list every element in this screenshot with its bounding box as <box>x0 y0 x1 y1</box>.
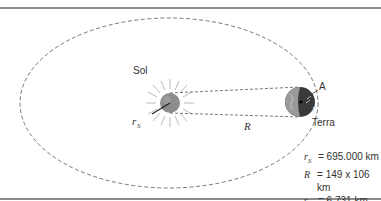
earth-radius-label: r <box>312 102 317 114</box>
distance-label: R <box>243 120 251 132</box>
legend-row-earth-radius: r = 6.731 km <box>304 194 381 201</box>
tangent-line-top <box>170 87 300 93</box>
point-a-label: A <box>319 81 326 92</box>
legend-row-distance: R = 149 x 106 km <box>304 168 381 194</box>
svg-text:S: S <box>137 122 141 130</box>
sun-radius-label: r S <box>132 115 141 130</box>
legend: rS = 695.000 km R = 149 x 106 km r = 6.7… <box>304 150 381 201</box>
legend-row-sun-radius: rS = 695.000 km <box>304 150 381 168</box>
earth-icon <box>285 87 315 117</box>
earth-label: Terra <box>312 117 335 128</box>
sun-label: Sol <box>133 65 147 76</box>
tangent-line-bottom <box>170 113 300 117</box>
